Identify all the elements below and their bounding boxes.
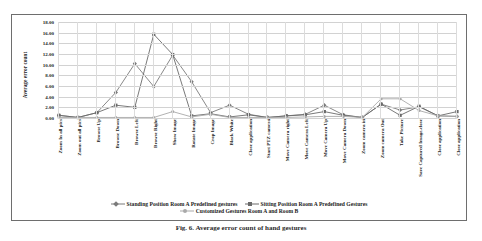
plot-wrapper: Average error count 0.002.004.006.008.00… xyxy=(12,15,466,220)
x-axis-tick: Rotate Image xyxy=(191,119,197,193)
x-gridline xyxy=(361,22,362,119)
gridline xyxy=(59,75,457,76)
x-axis-tick: Move Camera Down xyxy=(342,119,348,193)
legend-row-1: Standing Position Room A Predefined gest… xyxy=(111,201,368,207)
gridline xyxy=(59,86,457,87)
x-axis-tick: Close application xyxy=(437,119,443,193)
x-gridline xyxy=(96,22,97,119)
x-axis-tick: Zoom camera in xyxy=(361,119,367,193)
legend-marker-diamond-icon xyxy=(111,201,125,207)
figure-chart-panel: Average error count 0.002.004.006.008.00… xyxy=(11,14,467,221)
x-axis-tick: Show Image xyxy=(172,119,178,193)
x-axis-tick: Start PTZ camera xyxy=(266,119,272,193)
x-gridline xyxy=(304,22,305,119)
x-axis-tick-labels: Zoom In all picsZoom out all picsBrowse … xyxy=(58,119,456,197)
x-axis-tick: Browse Up xyxy=(96,119,102,193)
legend-label-standing: Standing Position Room A Predefined gest… xyxy=(127,201,238,207)
x-axis-tick: Zoom In all pics xyxy=(58,119,64,193)
x-axis-tick: Zoom camera Out xyxy=(380,119,386,193)
y-axis-tick: 16.00 xyxy=(43,30,54,35)
x-gridline xyxy=(437,22,438,119)
y-axis-tick: 10.00 xyxy=(43,62,54,67)
y-axis-tick-labels: 0.002.004.006.008.0010.0012.0014.0016.00… xyxy=(30,15,56,125)
y-axis-tick: 14.00 xyxy=(43,41,54,46)
gridline xyxy=(59,54,457,55)
x-axis-tick: Save Captured Image,close xyxy=(418,119,424,193)
x-gridline xyxy=(172,22,173,119)
gridline xyxy=(59,43,457,44)
x-gridline xyxy=(399,22,400,119)
x-axis-tick: Browse Left xyxy=(134,119,140,193)
x-axis-tick: Move Camera Up xyxy=(323,119,329,193)
figure-caption: Fig. 6. Average error count of hand gest… xyxy=(0,224,482,232)
y-axis-tick: 2.00 xyxy=(45,105,54,110)
y-axis-tick: 6.00 xyxy=(45,84,54,89)
legend-item-customized[interactable]: Customized Gestures Room A and Room B xyxy=(180,208,298,214)
x-gridline xyxy=(342,22,343,119)
legend-marker-circle-icon xyxy=(180,208,194,214)
gridline xyxy=(59,97,457,98)
legend-row-2: Customized Gestures Room A and Room B xyxy=(180,208,298,214)
y-axis-tick: 0.00 xyxy=(45,116,54,121)
legend-item-sitting[interactable]: Sitting Position Room A Predefined Gestu… xyxy=(245,201,368,207)
x-gridline xyxy=(323,22,324,119)
y-axis-title-text: Average error count xyxy=(22,52,28,99)
x-axis-tick: Browse Down xyxy=(115,119,121,193)
legend-label-sitting: Sitting Position Room A Predefined Gestu… xyxy=(261,201,368,207)
x-gridline xyxy=(115,22,116,119)
x-axis-tick: Close application xyxy=(456,119,462,193)
x-axis-tick: Take Picture xyxy=(399,119,405,193)
x-axis-tick: Crop Image xyxy=(210,119,216,193)
y-axis-tick: 8.00 xyxy=(45,73,54,78)
plot-area xyxy=(58,22,457,119)
x-gridline xyxy=(456,22,457,119)
chart-legend: Standing Position Room A Predefined gest… xyxy=(12,201,466,214)
x-gridline xyxy=(266,22,267,119)
x-gridline xyxy=(153,22,154,119)
gridline xyxy=(59,107,457,108)
x-gridline xyxy=(418,22,419,119)
x-axis-tick: Browse Right xyxy=(153,119,159,193)
x-gridline xyxy=(58,22,59,119)
x-gridline xyxy=(285,22,286,119)
x-gridline xyxy=(134,22,135,119)
x-axis-tick: Move Camera Left xyxy=(304,119,310,193)
x-gridline xyxy=(229,22,230,119)
legend-item-standing[interactable]: Standing Position Room A Predefined gest… xyxy=(111,201,238,207)
y-axis-tick: 18.00 xyxy=(43,20,54,25)
y-axis-tick: 12.00 xyxy=(43,52,54,57)
series-canvas xyxy=(59,22,457,118)
x-gridline xyxy=(210,22,211,119)
x-axis-tick: Move Camera right xyxy=(285,119,291,193)
x-gridline xyxy=(77,22,78,119)
x-gridline xyxy=(248,22,249,119)
legend-marker-square-icon xyxy=(245,201,259,207)
legend-label-customized: Customized Gestures Room A and Room B xyxy=(196,208,298,214)
x-gridline xyxy=(191,22,192,119)
x-gridline xyxy=(380,22,381,119)
x-axis-tick: Zoom out all pics xyxy=(77,119,83,193)
y-axis-tick: 4.00 xyxy=(45,94,54,99)
x-axis-tick: Close application xyxy=(248,119,254,193)
gridline xyxy=(59,65,457,66)
gridline xyxy=(59,22,457,23)
x-axis-tick: Black White xyxy=(229,119,235,193)
gridline xyxy=(59,33,457,34)
